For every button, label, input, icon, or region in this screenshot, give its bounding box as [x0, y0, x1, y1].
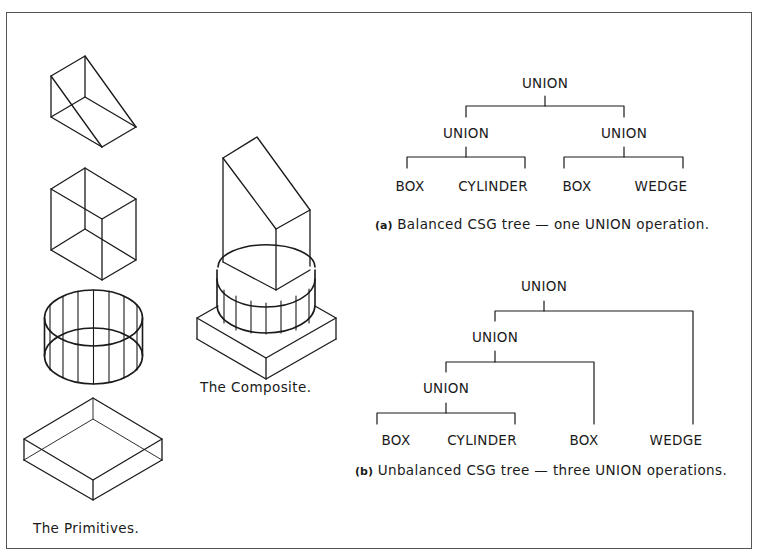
- tree-b-leaf-box-2: BOX: [570, 434, 599, 448]
- tree-a-right-union-node: UNION: [601, 127, 647, 141]
- tree-b-caption: (b) Unbalanced CSG tree — three UNION op…: [355, 464, 727, 478]
- unbalanced-tree-edges: [377, 301, 693, 424]
- tree-a-caption: (a) Balanced CSG tree — one UNION operat…: [375, 218, 709, 232]
- tree-a-root-node: UNION: [522, 77, 568, 91]
- primitives-caption: The Primitives.: [33, 522, 139, 536]
- tree-a-left-union-node: UNION: [443, 127, 489, 141]
- tree-b-level2-union-node: UNION: [423, 382, 469, 396]
- tree-b-caption-label: (b): [355, 465, 373, 478]
- tree-b-leaf-box: BOX: [382, 434, 411, 448]
- tree-b-caption-text: Unbalanced CSG tree — three UNION operat…: [378, 462, 728, 478]
- composite-caption: The Composite.: [200, 381, 311, 395]
- box-primitive-icon: [51, 168, 136, 280]
- tree-b-root-node: UNION: [521, 280, 567, 294]
- flat-box-primitive-icon: [24, 398, 162, 500]
- tree-a-leaf-wedge: WEDGE: [635, 180, 688, 194]
- tree-b-leaf-wedge: WEDGE: [650, 434, 703, 448]
- tree-a-leaf-box: BOX: [396, 180, 425, 194]
- tree-b-leaf-cylinder: CYLINDER: [447, 434, 517, 448]
- tree-a-caption-text: Balanced CSG tree — one UNION operation.: [397, 216, 709, 232]
- tree-a-leaf-cylinder: CYLINDER: [458, 180, 528, 194]
- tree-b-level1-union-node: UNION: [472, 331, 518, 345]
- tree-a-caption-label: (a): [375, 219, 392, 232]
- tree-a-leaf-box-2: BOX: [563, 180, 592, 194]
- cylinder-primitive-icon: [45, 290, 143, 384]
- wedge-primitive-icon: [51, 56, 136, 147]
- composite-solid-icon: [197, 137, 336, 379]
